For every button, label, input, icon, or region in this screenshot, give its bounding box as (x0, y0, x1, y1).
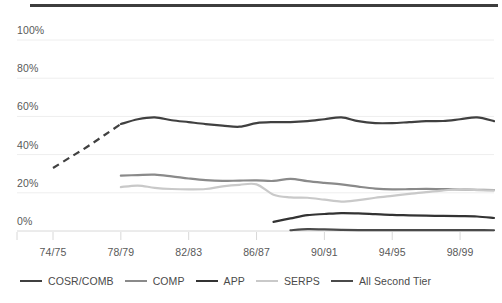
legend-swatch-icon (20, 280, 42, 282)
x-tick-label-98-99: 98/99 (430, 246, 490, 258)
data-series-group (53, 117, 494, 230)
chart-legend: COSR/COMBCOMPAPPSERPSAll Second Tier (20, 272, 442, 290)
y-tick-label-80: 80% (17, 62, 38, 74)
x-tick-label-86-87: 86/87 (227, 246, 287, 258)
x-axis-ticks (17, 232, 460, 240)
legend-item-app[interactable]: APP (196, 275, 245, 287)
y-tick-label-40: 40% (17, 139, 38, 151)
series-line-comp (121, 175, 494, 191)
x-tick-label-94-95: 94/95 (362, 246, 422, 258)
gridlines (17, 40, 494, 231)
series-line-app (274, 213, 495, 222)
legend-item-comp[interactable]: COMP (125, 275, 185, 287)
x-tick-label-82-83: 82/83 (159, 246, 219, 258)
legend-swatch-icon (196, 280, 218, 282)
legend-item-all-second-tier[interactable]: All Second Tier (331, 275, 431, 287)
legend-label: COMP (153, 275, 185, 287)
chart-figure: 0%20%40%60%80%100% 74/7578/7982/8386/879… (0, 0, 502, 303)
legend-swatch-icon (125, 280, 147, 282)
x-tick-label-78-79: 78/79 (91, 246, 151, 258)
legend-label: COSR/COMB (48, 275, 114, 287)
y-tick-label-20: 20% (17, 177, 38, 189)
x-tick-label-74-75: 74/75 (23, 246, 83, 258)
series-line-all-second-tier (290, 229, 494, 230)
legend-item-serps[interactable]: SERPS (256, 275, 320, 287)
series-line-cosr-comb-dashed (53, 124, 121, 168)
legend-swatch-icon (256, 280, 278, 282)
y-tick-label-60: 60% (17, 100, 38, 112)
series-line-cosr-comb (121, 117, 494, 126)
legend-label: SERPS (284, 275, 320, 287)
legend-label: APP (224, 275, 245, 287)
y-tick-label-100: 100% (17, 24, 44, 36)
legend-item-cosr-comb[interactable]: COSR/COMB (20, 275, 114, 287)
legend-label: All Second Tier (359, 275, 431, 287)
legend-swatch-icon (331, 280, 353, 282)
x-tick-label-90-91: 90/91 (294, 246, 354, 258)
y-tick-label-0: 0% (17, 215, 32, 227)
